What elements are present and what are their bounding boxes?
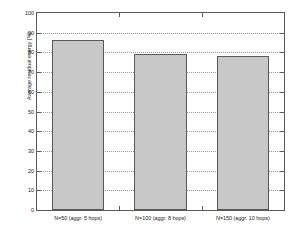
y-axis-tick xyxy=(280,112,284,113)
x-axis-tick xyxy=(202,13,203,17)
y-axis-tick-label: 10 xyxy=(8,187,34,193)
x-axis-tick xyxy=(202,206,203,210)
y-axis-tick xyxy=(280,190,284,191)
y-axis-tick xyxy=(37,171,41,172)
figure-canvas: Average residual energy [%] 010203040506… xyxy=(0,0,299,238)
plot-inner xyxy=(37,13,284,210)
y-axis-tick-label: 30 xyxy=(8,148,34,154)
y-axis-tick xyxy=(280,151,284,152)
bar xyxy=(217,56,269,210)
y-axis-tick xyxy=(37,190,41,191)
y-axis-tick-label: 20 xyxy=(8,168,34,174)
x-axis-category-label: N=50 (aggr. 5 hops) xyxy=(37,215,119,222)
y-axis-tick xyxy=(280,33,284,34)
y-axis-tick xyxy=(280,72,284,73)
y-axis-tick-label: 80 xyxy=(8,49,34,55)
x-axis-category-label: N=150 (aggr. 10 hops) xyxy=(202,215,284,222)
y-axis-tick xyxy=(37,92,41,93)
y-axis-tick xyxy=(37,52,41,53)
plot-area xyxy=(36,12,285,211)
y-axis-tick-label: 70 xyxy=(8,69,34,75)
bar xyxy=(52,40,104,210)
y-axis-tick-label: 100 xyxy=(8,10,34,16)
y-axis-tick xyxy=(37,131,41,132)
y-axis-tick xyxy=(280,52,284,53)
y-axis-tick-label: 0 xyxy=(8,207,34,213)
bar xyxy=(134,54,186,210)
y-axis-tick xyxy=(37,151,41,152)
y-axis-tick-label: 40 xyxy=(8,128,34,134)
gridline xyxy=(37,33,284,34)
y-axis-tick xyxy=(37,112,41,113)
y-axis-tick xyxy=(280,92,284,93)
y-axis-tick xyxy=(280,131,284,132)
x-axis-category-label: N=100 (aggr. 8 hops) xyxy=(119,215,201,222)
y-axis-tick xyxy=(37,72,41,73)
y-axis-tick-label: 50 xyxy=(8,109,34,115)
y-axis-tick xyxy=(37,33,41,34)
x-axis-tick xyxy=(119,206,120,210)
y-axis-tick-label: 90 xyxy=(8,30,34,36)
y-axis-tick-label: 60 xyxy=(8,89,34,95)
x-axis-tick xyxy=(119,13,120,17)
y-axis-tick xyxy=(280,171,284,172)
